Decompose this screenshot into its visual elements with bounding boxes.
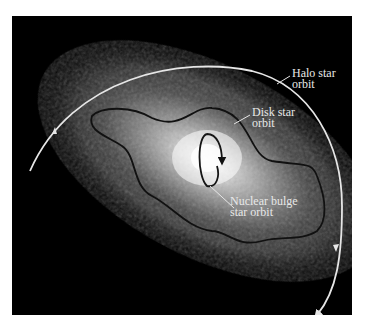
halo-orbit-label: Halo star orbit [292,68,336,90]
halo-label-line2: orbit [292,79,336,90]
disk-orbit-label: Disk star orbit [252,107,295,129]
halo-leader-line [277,76,290,84]
bulge-label-line2: star orbit [230,207,298,218]
galaxy-diagram [12,16,352,315]
bulge-orbit-label: Nuclear bulge star orbit [230,196,298,218]
galaxy-image: Halo star orbit Disk star orbit Nuclear … [12,16,352,315]
disk-label-line2: orbit [252,118,295,129]
galaxy-body [12,16,352,315]
